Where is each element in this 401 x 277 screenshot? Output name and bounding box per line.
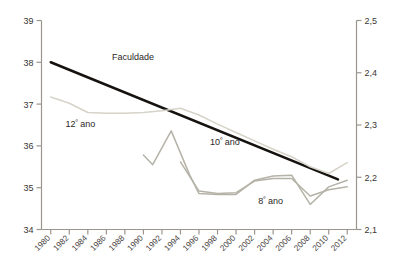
x-axis-tick-label: 1996 <box>181 233 201 253</box>
annotation-layer: 1980198219841986198819901992199419961998… <box>33 52 349 253</box>
series-label-ano10: 10º ano <box>210 137 240 147</box>
x-axis-tick-label: 1994 <box>163 233 183 253</box>
right-axis-tick-label: 2,2 <box>365 173 378 183</box>
chart-container: 3435363738392,12,22,32,42,5 198019821984… <box>0 0 401 277</box>
line-chart: 3435363738392,12,22,32,42,5 198019821984… <box>0 0 401 277</box>
x-axis-tick-label: 1980 <box>33 233 53 253</box>
right-axis-tick-label: 2,4 <box>365 68 378 78</box>
series-label-ano12: 12º ano <box>66 119 96 129</box>
x-axis-tick-label: 2006 <box>274 233 294 253</box>
right-axis-tick-label: 2,5 <box>365 16 378 26</box>
series-label-faculdade: Faculdade <box>112 52 154 62</box>
series-line-4 <box>180 162 347 196</box>
series-layer <box>51 62 347 204</box>
x-axis-tick-label: 2004 <box>255 233 275 253</box>
x-axis-tick-label: 2000 <box>218 233 238 253</box>
x-axis-tick-label: 1988 <box>107 233 127 253</box>
left-axis-tick-label: 36 <box>23 141 33 151</box>
x-axis-tick-label: 2008 <box>292 233 312 253</box>
x-axis-tick-label: 1982 <box>51 233 71 253</box>
left-axis-tick-label: 39 <box>23 16 33 26</box>
left-axis-tick-label: 38 <box>23 58 33 68</box>
x-axis-tick-label: 1998 <box>200 233 220 253</box>
left-axis-tick-label: 35 <box>23 183 33 193</box>
left-axis-tick-label: 37 <box>23 100 33 110</box>
x-axis-tick-label: 1984 <box>70 233 90 253</box>
x-axis-tick-label: 2010 <box>311 233 331 253</box>
x-axis-tick-label: 1986 <box>89 233 109 253</box>
x-axis-tick-label: 2012 <box>329 233 349 253</box>
right-axis-tick-label: 2,3 <box>365 120 378 130</box>
x-axis-tick-label: 1990 <box>126 233 146 253</box>
left-axis-tick-label: 34 <box>23 225 33 235</box>
x-axis-tick-label: 2002 <box>237 233 257 253</box>
right-axis-tick-label: 2,1 <box>365 225 378 235</box>
series-line-2 <box>51 97 347 174</box>
x-axis-tick-label: 1992 <box>144 233 164 253</box>
series-label-ano8: 8º ano <box>258 196 283 206</box>
